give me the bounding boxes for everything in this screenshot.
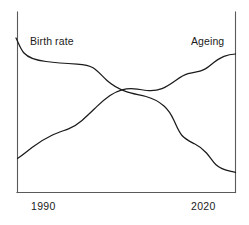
x-tick-label-1990: 1990 [31,200,56,212]
chart-canvas [0,0,249,225]
series-line-ageing [18,54,236,159]
series-label-ageing: Ageing [191,35,224,47]
sketch-chart: Birth rate Ageing 1990 2020 [0,0,249,225]
series-line-birth-rate [16,38,236,172]
x-tick-label-2020: 2020 [191,200,216,212]
series-label-birth-rate: Birth rate [30,35,74,47]
